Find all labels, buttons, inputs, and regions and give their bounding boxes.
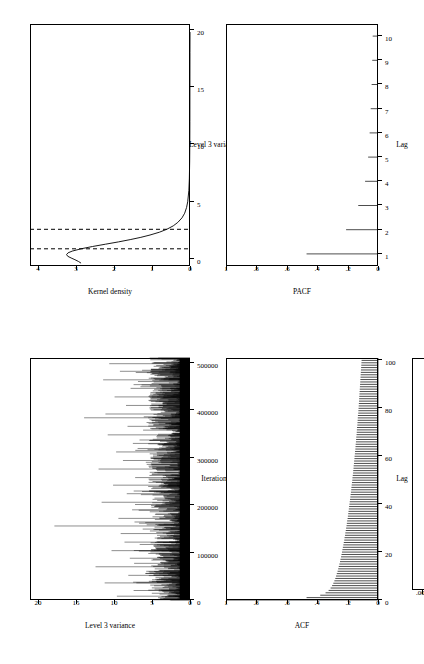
mcse-data-layer <box>404 346 424 646</box>
panel-acf: 0204060801000.2.4.6.81LagACF <box>218 346 403 646</box>
trace-data-layer <box>22 346 217 646</box>
density-data-layer <box>22 12 217 312</box>
panel-trace: 010000020000030000040000050000005101520I… <box>22 346 217 646</box>
figure-canvas: 010000020000030000040000050000005101520I… <box>0 0 424 664</box>
panel-kernel-density: 0510152001234Level 3 varianceKernel dens… <box>22 12 217 312</box>
panel-pacf: 123456789100.2.4.6.81LagPACF <box>218 12 403 312</box>
acf-data-layer <box>218 346 403 646</box>
pacf-data-layer <box>218 12 403 312</box>
panel-mcse: 02000000400000060000008000000100000000.0… <box>404 346 424 646</box>
